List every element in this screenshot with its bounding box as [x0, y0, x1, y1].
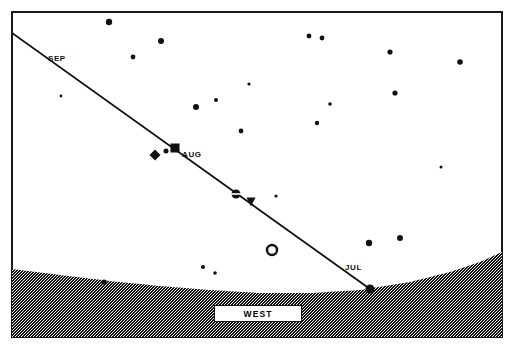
star	[328, 102, 332, 106]
marker-dot-small	[164, 149, 169, 154]
chart-canvas	[0, 0, 514, 352]
star	[213, 271, 217, 275]
star	[247, 82, 250, 85]
star	[101, 279, 106, 284]
west-direction-marker: WEST	[214, 305, 302, 322]
star	[201, 265, 205, 269]
star	[457, 59, 463, 65]
star	[387, 49, 392, 54]
star	[158, 38, 164, 44]
star	[366, 240, 372, 246]
star	[274, 194, 277, 197]
star	[315, 121, 319, 125]
jul-label: JUL	[345, 263, 362, 272]
star	[320, 36, 325, 41]
sep-label: SEP	[48, 54, 66, 63]
marker-horizon-dot	[366, 285, 375, 294]
star	[106, 19, 112, 25]
star	[392, 90, 397, 95]
star	[131, 55, 136, 60]
sky-chart: SEP AUG JUL WEST	[0, 0, 514, 352]
star	[397, 235, 403, 241]
marker-square	[171, 144, 180, 153]
star	[239, 129, 244, 134]
star	[60, 95, 63, 98]
star	[440, 166, 443, 169]
aug-label: AUG	[182, 150, 202, 159]
west-direction-label: WEST	[244, 309, 273, 319]
star	[193, 104, 199, 110]
star	[214, 98, 218, 102]
star	[307, 34, 312, 39]
